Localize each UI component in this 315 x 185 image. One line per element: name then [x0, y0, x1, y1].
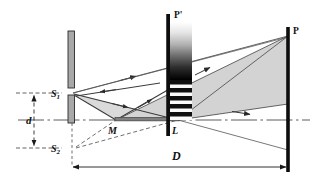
fringe-stripe: [170, 80, 192, 85]
figure-canvas: S1 S2 M L P' P d D: [0, 0, 315, 185]
beam-arrow-upper: [195, 68, 210, 76]
optics-figure: S1 S2 M L P' P d D: [0, 0, 315, 185]
label-m: M: [107, 125, 118, 136]
label-s1: S1: [51, 88, 60, 102]
ray-upper-left-return: [76, 83, 160, 96]
label-d: d: [26, 114, 32, 126]
label-s2: S2: [51, 143, 61, 157]
label-s1-sub: 1: [57, 93, 61, 101]
slit-barrier: [68, 31, 75, 123]
label-screen-near: P': [174, 10, 182, 20]
ray-arrow-return: [100, 90, 116, 93]
fringe-screen-overlay: [167, 14, 170, 136]
label-l: L: [171, 125, 178, 136]
fringe-gradient-band: [170, 22, 192, 80]
virtual-ray-s2-to-l: [76, 120, 178, 148]
fringe-stripe: [170, 88, 192, 93]
fringe-stripe: [170, 112, 192, 117]
separation-dimension: [16, 93, 62, 148]
beam-arrow-lower: [232, 112, 250, 115]
label-s2-sub: 2: [56, 148, 61, 156]
fringe-pattern: [170, 22, 192, 120]
label-screen-far: P: [293, 26, 299, 36]
fringe-stripe: [170, 96, 192, 101]
label-D: D: [171, 149, 181, 163]
fringe-stripe: [170, 104, 192, 109]
observation-screen: [286, 27, 290, 172]
virtual-ray-s2-extended: [178, 120, 288, 150]
